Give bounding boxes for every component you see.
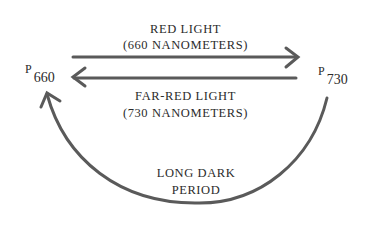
far-red-light-arrow	[73, 68, 296, 86]
far-red-light-title: FAR-RED LIGHT	[0, 89, 371, 104]
far-red-light-label: FAR-RED LIGHT	[0, 89, 371, 104]
far-red-light-wavelength: (730 NANOMETERS)	[0, 106, 371, 121]
state-p660-letter: P	[25, 62, 32, 76]
red-light-nm: (660 NANOMETERS)	[0, 38, 371, 53]
red-light-label: RED LIGHT	[0, 22, 371, 37]
state-p730: P730	[318, 64, 348, 82]
state-p730-subscript: 730	[327, 72, 348, 87]
state-p660: P660	[25, 62, 55, 80]
dark-period-label: LONG DARK	[146, 166, 246, 181]
far-red-light-nm: (730 NANOMETERS)	[0, 106, 371, 121]
dark-period-line2: PERIOD	[146, 183, 246, 198]
state-p660-subscript: 660	[34, 70, 55, 85]
red-light-wavelength: (660 NANOMETERS)	[0, 38, 371, 53]
red-light-title: RED LIGHT	[0, 22, 371, 37]
dark-period-line1: LONG DARK	[146, 166, 246, 181]
state-p730-letter: P	[318, 64, 325, 78]
dark-period-label-2: PERIOD	[146, 183, 246, 198]
